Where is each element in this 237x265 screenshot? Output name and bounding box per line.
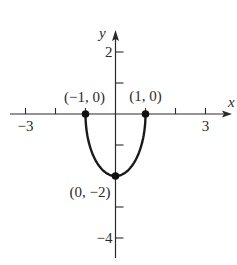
point-label: (−1, 0) xyxy=(64,89,105,106)
x-tick-label: 3 xyxy=(202,118,210,134)
data-point xyxy=(112,172,120,180)
axes xyxy=(10,30,232,258)
x-tick-label: −3 xyxy=(18,118,34,134)
data-point xyxy=(82,110,90,118)
y-tick-label: 2 xyxy=(105,44,113,60)
labels-layer: xy−332−4(−1, 0)(1, 0)(0, −2) xyxy=(18,25,235,246)
point-label: (0, −2) xyxy=(70,184,111,201)
x-axis-label: x xyxy=(227,94,235,110)
point-label: (1, 0) xyxy=(129,88,162,105)
chart: xy−332−4(−1, 0)(1, 0)(0, −2) xyxy=(0,0,237,265)
y-tick-label: −4 xyxy=(97,230,113,246)
data-point xyxy=(142,110,150,118)
y-axis-label: y xyxy=(97,25,106,41)
